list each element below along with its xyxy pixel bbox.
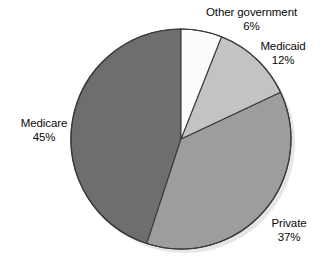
pie-label-private-value: 37%	[252, 231, 326, 245]
pie-label-medicaid-name: Medicaid	[240, 40, 326, 54]
pie-label-medicaid-value: 12%	[240, 54, 326, 68]
pie-label-other-government: Other government 6%	[189, 6, 314, 33]
pie-label-medicaid: Medicaid 12%	[240, 40, 326, 67]
pie-label-other-government-name: Other government	[189, 6, 314, 20]
pie-label-medicare-value: 45%	[5, 131, 83, 145]
pie-label-private-name: Private	[252, 217, 326, 231]
pie-label-medicare-name: Medicare	[5, 117, 83, 131]
pie-label-other-government-value: 6%	[189, 20, 314, 34]
pie-label-private: Private 37%	[252, 217, 326, 244]
pie-chart: Other government 6% Medicaid 12% Private…	[0, 0, 331, 265]
pie-label-medicare: Medicare 45%	[5, 117, 83, 144]
